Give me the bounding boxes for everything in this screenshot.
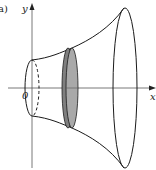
lower-profile-curve [32,116,124,168]
solid-of-revolution-diagram: a) y x 0 [0,0,156,170]
y-axis-label: y [21,3,28,14]
y-axis-arrow-icon [30,3,35,10]
figure-label: a) [0,3,8,14]
x-axis-label: x [150,91,156,102]
x-axis-arrow-icon [149,86,156,91]
upper-profile-curve [32,8,124,60]
